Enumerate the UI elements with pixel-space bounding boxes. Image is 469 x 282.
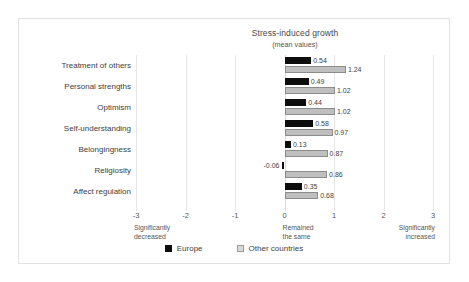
axis-annotation-line: decreased: [134, 232, 170, 241]
bar-group: -0.060.86: [136, 160, 433, 181]
data-label: 0.44: [308, 98, 322, 107]
bar-europe: [282, 162, 285, 169]
bar-europe: [285, 99, 307, 106]
bar-group: 0.541.24: [136, 55, 433, 76]
bar-europe: [285, 183, 302, 190]
legend-label: Europe: [177, 244, 203, 253]
bar-other-countries: [285, 66, 346, 73]
data-label: 1.02: [337, 86, 351, 95]
value-axis: -3-2-10123SignificantlydecreasedRemained…: [136, 211, 433, 261]
legend-item[interactable]: Europe: [165, 244, 203, 253]
axis-annotation: Significantlyincreased: [399, 223, 435, 241]
axis-tick--3: -3: [133, 211, 140, 220]
data-label: 0.13: [293, 140, 307, 149]
data-label: 0.54: [313, 56, 327, 65]
bar-other-countries: [285, 129, 333, 136]
bar-other-countries: [285, 87, 335, 94]
category-axis-labels: Treatment of othersPersonal strengthsOpt…: [19, 55, 131, 202]
bar-group: 0.130.87: [136, 139, 433, 160]
axis-annotation-line: Significantly: [134, 223, 170, 232]
category-label: Personal strengths: [19, 76, 131, 97]
chart-subtitle: (mean values): [141, 39, 449, 50]
data-label: 1.24: [348, 65, 362, 74]
bar-group: 0.491.02: [136, 76, 433, 97]
category-label: Self-understanding: [19, 118, 131, 139]
bar-group: 0.441.02: [136, 97, 433, 118]
axis-tick-3: 3: [431, 211, 435, 220]
category-label: Treatment of others: [19, 55, 131, 76]
bar-group: 0.350.68: [136, 181, 433, 202]
chart-title: Stress-induced growth: [141, 27, 449, 39]
axis-annotation-line: Significantly: [399, 223, 435, 232]
chart-legend: EuropeOther countries: [19, 244, 449, 253]
chart-title-block: Stress-induced growth (mean values): [19, 27, 449, 50]
category-label: Belongingness: [19, 139, 131, 160]
plot-area: 0.541.240.491.020.441.020.580.970.130.87…: [136, 55, 433, 211]
legend-swatch-icon: [165, 245, 172, 252]
data-label: -0.06: [264, 161, 280, 170]
gridline-3: [433, 55, 434, 211]
bar-other-countries: [285, 108, 335, 115]
axis-tick-2: 2: [381, 211, 385, 220]
category-label: Religiosity: [19, 160, 131, 181]
legend-swatch-icon: [237, 245, 244, 252]
axis-annotation: Significantlydecreased: [134, 223, 170, 241]
axis-tick--1: -1: [232, 211, 239, 220]
axis-annotation-line: increased: [399, 232, 435, 241]
data-label: 0.97: [335, 128, 349, 137]
axis-annotation: Remainedthe same: [283, 223, 314, 241]
legend-item[interactable]: Other countries: [237, 244, 304, 253]
bar-europe: [285, 57, 312, 64]
category-label: Optimism: [19, 97, 131, 118]
axis-tick--2: -2: [182, 211, 189, 220]
data-label: 0.87: [330, 149, 344, 158]
axis-tick-1: 1: [332, 211, 336, 220]
axis-tick-0: 0: [282, 211, 286, 220]
data-label: 0.68: [320, 191, 334, 200]
axis-annotation-line: the same: [283, 232, 314, 241]
axis-annotation-line: Remained: [283, 223, 314, 232]
bar-other-countries: [285, 150, 328, 157]
bar-group: 0.580.97: [136, 118, 433, 139]
bar-europe: [285, 141, 291, 148]
bar-other-countries: [285, 171, 328, 178]
data-label: 0.58: [315, 119, 329, 128]
category-label: Affect regulation: [19, 181, 131, 202]
legend-label: Other countries: [249, 244, 304, 253]
data-label: 0.86: [329, 170, 343, 179]
data-label: 0.49: [311, 77, 325, 86]
chart-container: Stress-induced growth (mean values) Trea…: [18, 18, 450, 264]
bar-europe: [285, 120, 314, 127]
bar-europe: [285, 78, 309, 85]
data-label: 0.35: [304, 182, 318, 191]
bar-other-countries: [285, 192, 319, 199]
data-label: 1.02: [337, 107, 351, 116]
